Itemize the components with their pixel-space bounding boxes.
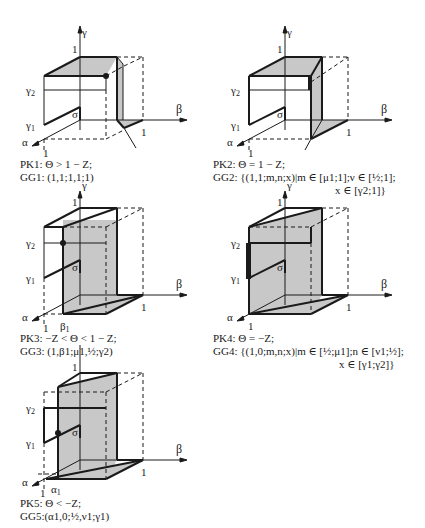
one-label-top: 1 bbox=[72, 362, 78, 373]
beta-axis-label: β bbox=[381, 279, 387, 290]
sigma-label: σ bbox=[277, 262, 283, 273]
alpha-axis-label: α bbox=[227, 312, 233, 323]
one-label-top: 1 bbox=[72, 197, 78, 208]
beta-axis-label: β bbox=[176, 444, 182, 455]
beta1-label: β1 bbox=[60, 321, 70, 332]
one-label-beta: 1 bbox=[141, 467, 147, 478]
gamma2-label: γ2 bbox=[231, 238, 240, 249]
cube-diagram-pk4 bbox=[205, 175, 425, 355]
gamma-axis-label: γ bbox=[287, 27, 292, 38]
beta-axis-label: β bbox=[381, 104, 387, 115]
one-label-beta: 1 bbox=[141, 302, 147, 313]
cube-diagram-pk5 bbox=[0, 340, 212, 520]
cube-diagram-pk3 bbox=[0, 175, 212, 355]
one-label-top: 1 bbox=[72, 44, 78, 55]
one-label-beta: 1 bbox=[141, 127, 147, 138]
sigma-label: σ bbox=[72, 427, 78, 438]
one-label-beta: 1 bbox=[346, 127, 352, 138]
caption-condition-pk4: PK4: Θ = −Z; bbox=[213, 332, 274, 345]
panel-pk3: γ 1 γ2 γ1 σ β α 1 1 β1 PK3: −Z < Θ < 1 −… bbox=[0, 175, 212, 355]
gamma-axis-label: γ bbox=[82, 27, 87, 38]
gamma-axis-label: γ bbox=[287, 180, 292, 191]
caption-condition-pk1: PK1: Θ > 1 − Z; bbox=[20, 158, 92, 171]
beta-axis-label: β bbox=[176, 104, 182, 115]
one-label-alpha: 1 bbox=[248, 321, 254, 332]
alpha-axis-label: α bbox=[22, 137, 28, 148]
caption-game-pk4-line1: GG4: {(1,0;m,n;x)|m ∈ [½;μ1];n ∈ [ν1;½]; bbox=[213, 345, 404, 358]
alpha-axis-label: α bbox=[22, 312, 28, 323]
gamma1-label: γ1 bbox=[231, 120, 240, 131]
gamma1-label: γ1 bbox=[26, 120, 35, 131]
gamma2-label: γ2 bbox=[231, 85, 240, 96]
panel-pk2: γ 1 γ2 γ1 σ β α 1 1 PK2: Θ = 1 − Z; GG2:… bbox=[205, 0, 425, 200]
gamma2-label: γ2 bbox=[26, 85, 35, 96]
alpha-axis-label: α bbox=[22, 477, 28, 488]
gamma1-label: γ1 bbox=[26, 273, 35, 284]
one-label-top: 1 bbox=[277, 44, 283, 55]
alpha1-label: α1 bbox=[51, 484, 61, 495]
gamma1-label: γ1 bbox=[231, 273, 240, 284]
caption-condition-pk2: PK2: Θ = 1 − Z; bbox=[213, 158, 285, 171]
caption-game-pk4-line2: x ∈ [γ1;γ2]} bbox=[339, 358, 395, 371]
panel-pk4: γ 1 γ2 γ1 σ β α 1 1 PK4: Θ = −Z; GG4: {(… bbox=[205, 175, 425, 355]
panel-pk5: 1 γ2 γ1 σ β α 1 1 α1 PK5: Θ < −Z; GG5:(α… bbox=[0, 340, 212, 520]
gamma1-label: γ1 bbox=[26, 438, 35, 449]
one-label-top: 1 bbox=[277, 197, 283, 208]
sigma-label: σ bbox=[72, 262, 78, 273]
alpha-axis-label: α bbox=[227, 137, 233, 148]
beta-axis-label: β bbox=[176, 279, 182, 290]
gamma2-label: γ2 bbox=[26, 403, 35, 414]
panel-pk1: γ 1 γ2 γ1 σ β α 1 1 PK1: Θ > 1 − Z; GG1:… bbox=[0, 0, 212, 180]
sigma-label: σ bbox=[277, 109, 283, 120]
sigma-label: σ bbox=[72, 109, 78, 120]
gamma-axis-label-top: γ bbox=[82, 180, 87, 191]
gamma2-label: γ2 bbox=[26, 238, 35, 249]
caption-condition-pk5: PK5: Θ < −Z; bbox=[20, 497, 81, 510]
caption-game-pk5: GG5:(α1,0;½,ν1;γ1) bbox=[20, 510, 109, 523]
one-label-beta: 1 bbox=[346, 302, 352, 313]
